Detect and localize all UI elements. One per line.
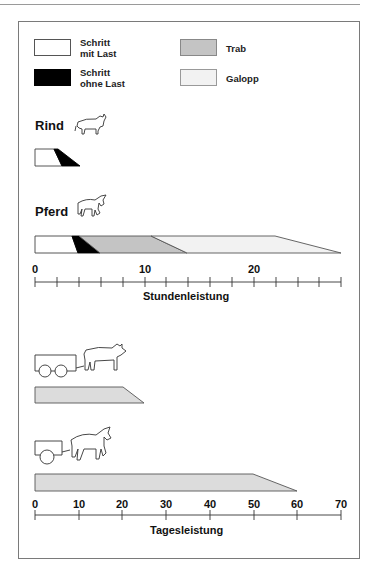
stunden-axis (35, 277, 341, 287)
horse-icon (78, 195, 106, 216)
cow-icon (75, 114, 106, 134)
horse-cart-bar (35, 474, 297, 491)
diagram-graphics (0, 0, 377, 574)
pferd-schritt-mit-last (35, 236, 78, 253)
tages-axis (35, 510, 341, 520)
ox-cart-icon (35, 344, 126, 377)
rind-bar (35, 149, 80, 166)
ox-cart-bar (35, 387, 144, 403)
pferd-bar (35, 236, 341, 253)
horse-cart-icon (35, 427, 111, 464)
